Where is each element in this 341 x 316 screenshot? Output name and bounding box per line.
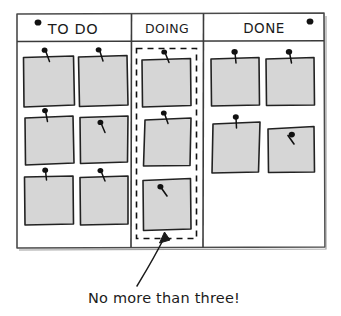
column-headers: TO DO DOING DONE: [47, 20, 285, 37]
column-header-done: DONE: [243, 20, 285, 36]
note-body: [80, 176, 128, 225]
note-body: [25, 116, 74, 165]
pin-head: [42, 48, 48, 53]
note-body: [143, 179, 191, 231]
pin-head: [96, 47, 102, 52]
pin-head: [42, 108, 48, 113]
note-body: [211, 58, 260, 107]
pin-head: [157, 184, 163, 189]
column-divider-todo-doing: [131, 14, 132, 248]
note-body: [142, 59, 191, 108]
sticky-note-todo-1[interactable]: [24, 48, 75, 107]
column-header-doing: DOING: [145, 21, 189, 36]
pin-head: [286, 49, 292, 55]
pin-head: [231, 49, 237, 55]
pin-head: [42, 168, 48, 173]
pin-head: [98, 168, 104, 173]
wip-limit-annotation-text: No more than three!: [88, 290, 240, 306]
sticky-note-todo-6[interactable]: [80, 168, 128, 225]
pin-head: [98, 120, 104, 125]
sticky-note-todo-4[interactable]: [80, 116, 128, 164]
header-separator: [17, 41, 324, 42]
pin-head: [233, 114, 239, 119]
sticky-note-todo-2[interactable]: [79, 47, 129, 106]
sticky-note-done-4[interactable]: [268, 127, 315, 173]
note-body: [144, 118, 192, 166]
sticky-note-done-3[interactable]: [212, 114, 260, 173]
column-header-todo: TO DO: [47, 21, 98, 37]
magnet-top-left-icon: [35, 19, 42, 25]
column-doing-notes: [142, 49, 191, 230]
sticky-note-todo-5[interactable]: [25, 168, 74, 225]
pin-head: [161, 110, 167, 115]
pin-head: [289, 132, 295, 138]
kanban-board-figure: TO DO DOING DONE: [0, 0, 341, 316]
note-body: [25, 176, 74, 225]
magnet-top-right-icon: [307, 18, 314, 24]
column-divider-doing-done: [203, 14, 204, 248]
note-body: [24, 56, 75, 107]
pin-head: [161, 49, 167, 54]
note-body: [212, 122, 260, 173]
note-body: [80, 116, 128, 164]
note-body: [79, 56, 129, 107]
note-body: [266, 58, 315, 106]
sticky-note-doing-3[interactable]: [143, 179, 191, 231]
